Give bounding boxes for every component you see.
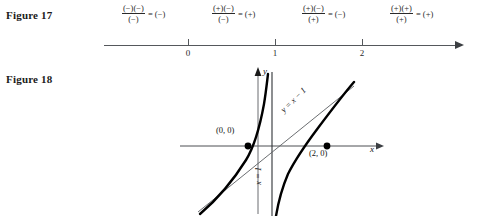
number-line-tick-label: 2: [360, 48, 365, 58]
fraction: (+)(+) (+): [390, 4, 413, 24]
number-line-tick-label: 1: [273, 48, 278, 58]
number-line: 0 1 2: [104, 36, 474, 62]
fraction-denominator: (−): [128, 14, 138, 23]
fraction-numerator: (+)(+): [390, 4, 413, 14]
point-label-origin: (0, 0): [216, 125, 234, 135]
graph-canvas: [178, 64, 388, 216]
point-label-two-zero: (2, 0): [309, 148, 327, 158]
sign-expression-1: (−)(−) (−) = (−): [122, 4, 165, 24]
fraction-numerator: (+)(−): [302, 4, 325, 14]
sign-expression-3: (+)(−) (+) = (−): [302, 4, 345, 24]
sign-expression-4: (+)(+) (+) = (+): [390, 4, 433, 24]
sign-expression-2: (+)(−) (−) = (+): [212, 4, 255, 24]
number-line-axis: [104, 45, 456, 46]
number-line-tick: [275, 39, 276, 45]
fraction-numerator: (+)(−): [212, 4, 235, 14]
figure-18-label: Figure 18: [6, 73, 53, 85]
expression-result: = (+): [416, 9, 433, 19]
x-axis-label: x: [370, 144, 374, 154]
number-line-tick: [362, 39, 363, 45]
fraction-denominator: (−): [218, 14, 228, 23]
fraction: (−)(−) (−): [122, 4, 145, 24]
number-line-tick: [188, 39, 189, 45]
y-axis-label: y: [263, 66, 267, 76]
figure-17-label: Figure 17: [6, 9, 53, 21]
expression-result: = (−): [328, 9, 345, 19]
arrow-right-icon: [455, 41, 464, 49]
expression-result: = (+): [238, 9, 255, 19]
vertical-asymptote-label: x = 1: [253, 167, 263, 185]
fraction-denominator: (+): [396, 14, 406, 23]
fraction: (+)(−) (+): [302, 4, 325, 24]
point-origin: [245, 143, 252, 150]
x-axis: [180, 143, 384, 150]
fraction-denominator: (+): [308, 14, 318, 23]
figure-18-graph: (0, 0) (2, 0) x y y = x − 1 x = 1: [178, 64, 388, 216]
expression-result: = (−): [148, 9, 165, 19]
number-line-tick-label: 0: [186, 48, 191, 58]
fraction-numerator: (−)(−): [122, 4, 145, 14]
fraction: (+)(−) (−): [212, 4, 235, 24]
